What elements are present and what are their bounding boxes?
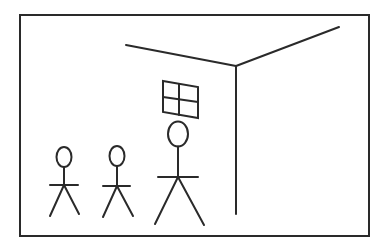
- window: [163, 81, 198, 118]
- room-drawing: [0, 0, 387, 249]
- room-corner: [126, 27, 339, 214]
- head: [57, 147, 72, 167]
- right-leg: [117, 186, 133, 216]
- large-figure: [155, 122, 204, 226]
- right-ceiling-line: [236, 27, 339, 66]
- left-leg: [50, 185, 64, 216]
- head: [168, 122, 188, 147]
- left-ceiling-line: [126, 45, 236, 66]
- left-leg: [103, 186, 117, 217]
- right-leg: [178, 177, 204, 225]
- illustration-canvas: [0, 0, 387, 249]
- small-figure-middle: [103, 146, 133, 217]
- left-leg: [155, 177, 178, 224]
- stick-figures: [50, 122, 204, 226]
- small-figure-left: [50, 147, 79, 216]
- window-horizontal-divider: [163, 97, 198, 102]
- head: [110, 146, 125, 166]
- right-leg: [64, 185, 79, 214]
